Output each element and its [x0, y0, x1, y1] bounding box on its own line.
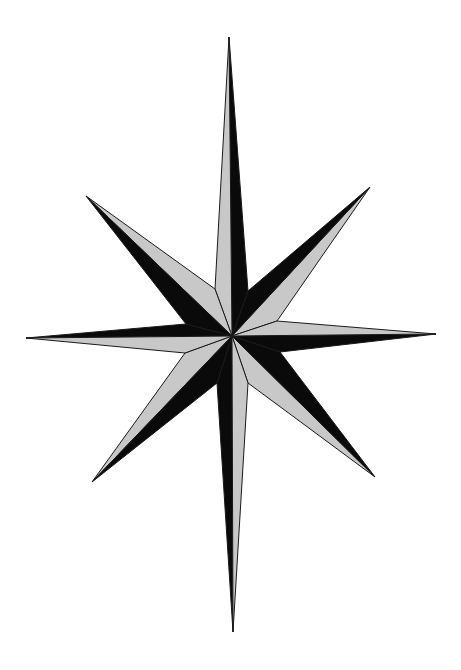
ray-facet-light	[232, 336, 248, 632]
ray-facet-light	[215, 37, 232, 336]
star-ray-north-west	[86, 196, 232, 336]
star-ray-north-east	[232, 187, 370, 336]
ray-facet-dark	[217, 336, 233, 632]
star-ray-south-west	[92, 336, 232, 482]
star-ray-south-east	[232, 336, 375, 477]
ray-facet-dark	[92, 336, 232, 482]
star-ray-south	[217, 336, 248, 632]
ray-facet-dark	[232, 336, 375, 477]
star-ray-north	[215, 37, 248, 336]
compass-star	[0, 0, 461, 670]
ray-facet-dark	[232, 187, 370, 336]
ray-facet-dark	[86, 196, 232, 336]
